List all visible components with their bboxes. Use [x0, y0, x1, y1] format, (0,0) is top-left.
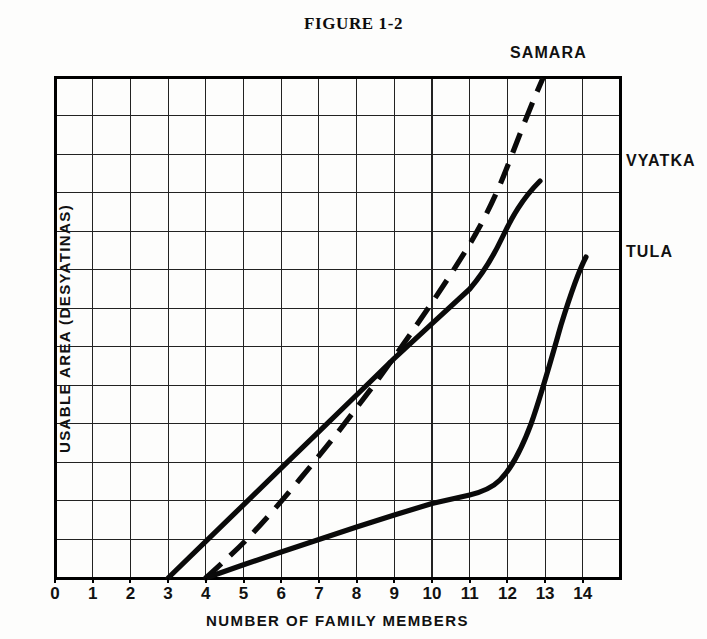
x-tick-7: 7: [299, 584, 339, 604]
grid-horizontal-lines: [55, 116, 620, 540]
y-axis-title: USABLE AREA (DESYATINAS): [56, 79, 73, 579]
x-tick-8: 8: [337, 584, 377, 604]
x-tick-14: 14: [563, 584, 603, 604]
x-tick-6: 6: [261, 584, 301, 604]
series-label-samara: SAMARA: [510, 44, 587, 62]
x-tick-5: 5: [224, 584, 264, 604]
series-line-vyatka: [168, 181, 540, 578]
x-tick-13: 13: [525, 584, 565, 604]
x-tick-12: 12: [487, 584, 527, 604]
x-tick-3: 3: [148, 584, 188, 604]
chart-plot-area: [0, 0, 707, 639]
x-tick-4: 4: [186, 584, 226, 604]
series-line-samara: [206, 78, 543, 578]
grid-vertical-lines: [93, 77, 583, 578]
x-tick-0: 0: [35, 584, 75, 604]
series-label-tula: TULA: [626, 243, 673, 261]
x-tick-1: 1: [73, 584, 113, 604]
x-tick-2: 2: [110, 584, 150, 604]
series-label-vyatka: VYATKA: [626, 152, 696, 170]
x-tick-11: 11: [450, 584, 490, 604]
plot-frame: [55, 77, 620, 578]
x-tick-10: 10: [412, 584, 452, 604]
figure-container: FIGURE 1-2: [0, 0, 707, 639]
x-tick-9: 9: [374, 584, 414, 604]
series-line-tula: [206, 257, 586, 578]
x-axis-tick-labels: 0 1 2 3 4 5 6 7 8 9 10 11 12 13 14: [0, 584, 707, 610]
x-axis-title: NUMBER OF FAMILY MEMBERS: [55, 612, 620, 629]
